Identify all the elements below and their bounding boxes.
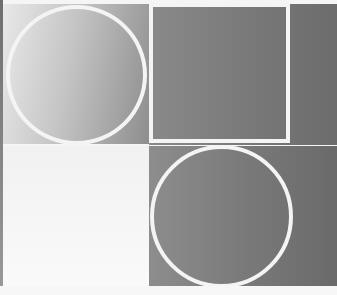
circle-outline-top-left: [6, 5, 147, 145]
square-outline-top-right: [149, 3, 290, 143]
panel-bottom-left: [3, 146, 149, 286]
bottom-margin: [0, 286, 337, 295]
abstract-artwork: [0, 0, 337, 295]
circle-outline-bottom-right: [150, 145, 293, 288]
